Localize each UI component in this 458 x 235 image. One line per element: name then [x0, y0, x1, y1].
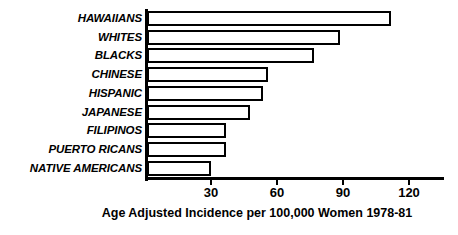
x-axis-title: Age Adjusted Incidence per 100,000 Women…	[0, 206, 458, 220]
x-tick-label-60: 60	[270, 185, 284, 200]
x-tick-label-30: 30	[204, 185, 218, 200]
bar-hispanic	[147, 86, 263, 101]
category-label-puerto-ricans: PUERTO RICANS	[49, 143, 143, 156]
plot-area: HAWAIIANS WHITES BLACKS CHINESE HISPANIC…	[0, 0, 458, 235]
bar-native-americans	[147, 161, 211, 176]
bar-chart: HAWAIIANS WHITES BLACKS CHINESE HISPANIC…	[0, 0, 458, 235]
bar-filipinos	[147, 123, 226, 138]
category-label-hispanic: HISPANIC	[89, 87, 142, 100]
bar-chinese	[147, 67, 268, 82]
category-label-whites: WHITES	[98, 31, 142, 44]
category-label-native-americans: NATIVE AMERICANS	[30, 162, 142, 175]
x-tick-label-90: 90	[336, 185, 350, 200]
bar-hawaiians	[147, 11, 391, 26]
bar-japanese	[147, 105, 250, 120]
category-label-blacks: BLACKS	[95, 49, 142, 62]
x-axis-line	[145, 177, 444, 180]
category-label-hawaiians: HAWAIIANS	[78, 12, 142, 25]
bar-blacks	[147, 48, 314, 63]
category-label-filipinos: FILIPINOS	[87, 124, 142, 137]
bar-whites	[147, 30, 340, 45]
x-tick-label-120: 120	[398, 185, 420, 200]
bar-puerto-ricans	[147, 142, 226, 157]
category-label-japanese: JAPANESE	[82, 106, 142, 119]
category-label-chinese: CHINESE	[92, 68, 142, 81]
